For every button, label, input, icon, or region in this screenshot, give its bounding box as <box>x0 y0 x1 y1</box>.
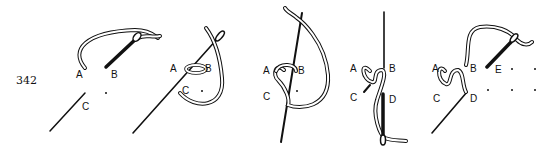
label-b-step1: B <box>111 70 118 80</box>
label-e-step5: E <box>495 65 502 75</box>
step-1-drawing <box>50 30 160 131</box>
step-2-drawing <box>133 28 226 133</box>
label-b-step4: B <box>389 64 396 74</box>
step-5-drawing <box>432 27 536 133</box>
label-a-step2: A <box>170 64 177 74</box>
label-a-step1: A <box>76 70 83 80</box>
label-c-step5: C <box>433 94 440 104</box>
label-c-step4: C <box>350 93 357 103</box>
label-a-step3: A <box>263 66 270 76</box>
label-b-step2: B <box>205 64 212 74</box>
step-4-drawing <box>363 12 406 145</box>
label-c-step3: C <box>263 92 270 102</box>
label-c-step2: C <box>182 86 189 96</box>
label-b-step5: B <box>470 64 477 74</box>
stitch-illustration <box>0 0 558 157</box>
label-a-step5: A <box>432 64 439 74</box>
label-b-step3: B <box>298 66 305 76</box>
label-c-step1: C <box>82 102 89 112</box>
embroidery-diagram: 342 <box>0 0 558 157</box>
label-d-step5: D <box>470 94 477 104</box>
label-d-step4: D <box>389 95 396 105</box>
label-a-step4: A <box>350 64 357 74</box>
